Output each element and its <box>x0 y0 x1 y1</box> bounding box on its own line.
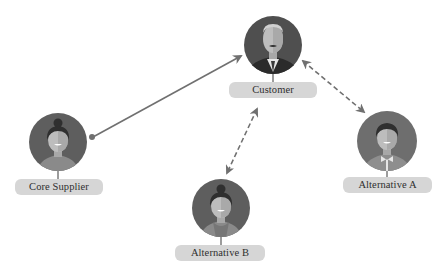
node-label-core-supplier[interactable]: Core Supplier <box>15 179 103 195</box>
node-label-customer[interactable]: Customer <box>229 82 317 98</box>
edge-customer-alternative-b <box>227 109 257 173</box>
customer-avatar-icon[interactable] <box>244 16 302 78</box>
edge-core-supplier-to-customer <box>89 56 241 140</box>
diagram-canvas <box>0 0 446 277</box>
alternative-b-avatar-icon[interactable] <box>192 179 250 241</box>
alternative-a-avatar-icon[interactable] <box>357 111 417 175</box>
node-label-alternative-b[interactable]: Alternative B <box>175 245 265 261</box>
connector-dot-icon <box>89 134 95 140</box>
node-label-alternative-a[interactable]: Alternative A <box>343 177 432 193</box>
core-supplier-avatar-icon[interactable] <box>29 113 87 175</box>
